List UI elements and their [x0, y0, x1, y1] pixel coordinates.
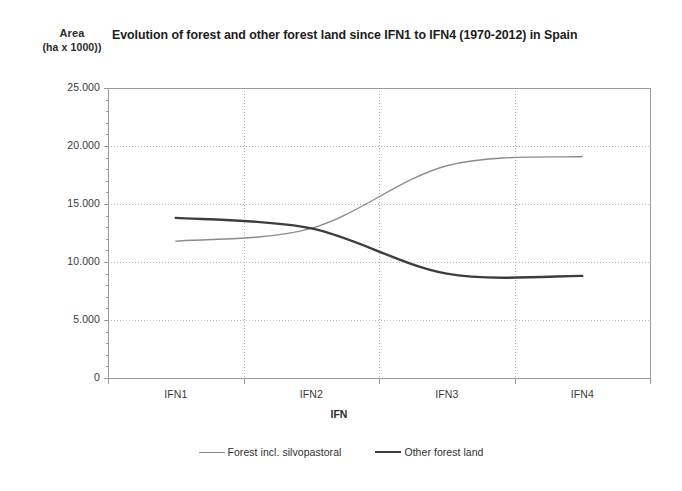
- x-axis-title: IFN: [299, 408, 379, 420]
- y-axis-tick-label: 20.000: [38, 139, 100, 151]
- legend-label: Forest incl. silvopastoral: [228, 446, 342, 458]
- legend-label: Other forest land: [404, 446, 483, 458]
- x-axis-tick-label: IFN2: [271, 388, 351, 400]
- y-axis-tick-label: 15.000: [38, 197, 100, 209]
- legend-line-icon: [375, 451, 401, 453]
- y-axis-tick-label: 25.000: [38, 81, 100, 93]
- y-axis-tick-label: 10.000: [38, 255, 100, 267]
- legend-line-icon: [199, 452, 225, 453]
- x-axis-tick-label: IFN4: [542, 388, 622, 400]
- chart-container: Area (ha x 1000)) Evolution of forest an…: [0, 0, 682, 491]
- x-axis-ticks: [109, 379, 651, 384]
- x-axis-tick-label: IFN1: [136, 388, 216, 400]
- y-axis-ticks: [104, 89, 109, 379]
- vertical-gridlines: [245, 88, 516, 378]
- x-axis-tick-label: IFN3: [407, 388, 487, 400]
- y-axis-tick-label: 0: [38, 371, 100, 383]
- legend-item: Forest incl. silvopastoral: [199, 446, 342, 458]
- legend-item: Other forest land: [375, 446, 483, 458]
- y-axis-tick-label: 5.000: [38, 313, 100, 325]
- chart-legend: Forest incl. silvopastoralOther forest l…: [0, 446, 682, 458]
